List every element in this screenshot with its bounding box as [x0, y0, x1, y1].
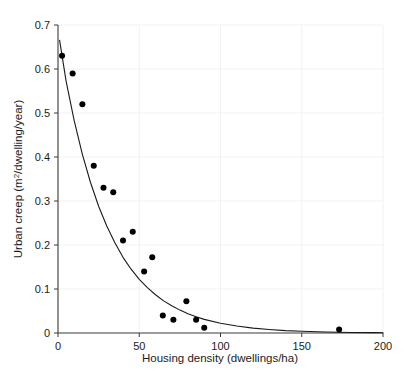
x-tick-label: 150	[293, 340, 311, 352]
scatter-point	[130, 229, 136, 235]
scatter-point	[141, 268, 147, 274]
scatter-point	[201, 325, 207, 331]
y-tick-label: 0.3	[35, 195, 50, 207]
scatter-point	[70, 70, 76, 76]
scatter-point	[59, 53, 65, 59]
scatter-point	[110, 189, 116, 195]
y-tick-label: 0	[44, 327, 50, 339]
y-axis-title-group: Urban creep (m2/dwelling/year)	[12, 100, 25, 259]
x-tick-label: 0	[55, 340, 61, 352]
y-tick-label: 0.7	[35, 19, 50, 31]
y-tick-group: 00.10.20.30.40.50.60.7	[35, 19, 58, 339]
scatter-point	[149, 254, 155, 260]
scatter-point	[160, 312, 166, 318]
scatter-point	[120, 238, 126, 244]
x-tick-label: 50	[133, 340, 145, 352]
scatter-point	[100, 185, 106, 191]
scatter-point	[170, 317, 176, 323]
scatter-point	[79, 101, 85, 107]
y-tick-label: 0.6	[35, 63, 50, 75]
scatter-point	[193, 317, 199, 323]
y-axis-title: Urban creep (m2/dwelling/year)	[12, 100, 25, 259]
y-tick-label: 0.4	[35, 151, 50, 163]
scatter-points-group	[59, 53, 342, 333]
scatter-point	[336, 326, 342, 332]
x-tick-label: 100	[211, 340, 229, 352]
scatter-point	[183, 298, 189, 304]
x-tick-label: 200	[374, 340, 392, 352]
x-axis-title: Housing density (dwellings/ha)	[142, 352, 298, 364]
urban-creep-scatter-figure: 050100150200 00.10.20.30.40.50.60.7 Hous…	[0, 0, 405, 378]
gridlines-group	[58, 25, 383, 333]
y-tick-label: 0.2	[35, 239, 50, 251]
x-tick-group: 050100150200	[55, 333, 392, 352]
scatter-point	[91, 163, 97, 169]
y-tick-label: 0.1	[35, 283, 50, 295]
chart-canvas: 050100150200 00.10.20.30.40.50.60.7 Hous…	[0, 0, 405, 378]
y-tick-label: 0.5	[35, 107, 50, 119]
